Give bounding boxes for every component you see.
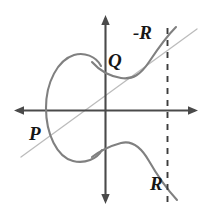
y-axis-arrow-up bbox=[101, 15, 109, 25]
diagram-canvas bbox=[0, 0, 209, 217]
point-label-r: R bbox=[150, 174, 163, 193]
y-axis-arrow-down bbox=[101, 194, 109, 204]
point-label-p: P bbox=[29, 124, 41, 143]
point-label-q: Q bbox=[108, 51, 122, 70]
elliptic-curve-diagram: P Q -R R bbox=[0, 0, 209, 217]
point-label-negative-r: -R bbox=[133, 23, 152, 42]
x-axis-arrow-left bbox=[14, 106, 24, 115]
curve-oval-component bbox=[46, 54, 102, 162]
x-axis-arrow-right bbox=[188, 106, 198, 115]
